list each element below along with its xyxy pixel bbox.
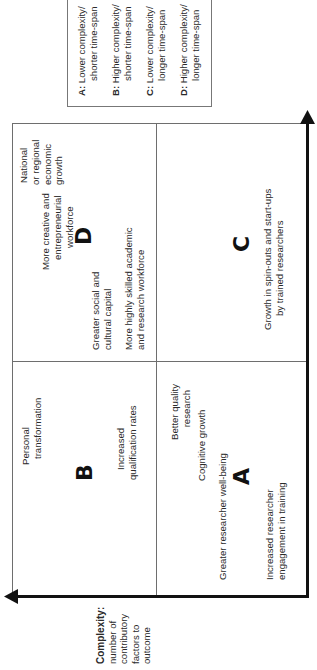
outcome-increased-engagement: Increased researcher engagement in train… (264, 482, 288, 580)
legend-item-b: B: Higher complexity/ shorter time-span (110, 4, 133, 96)
legend-item-d: D: Higher complexity/ longer time-span (178, 4, 201, 96)
outcome-greater-wellbeing: Greater researcher well-being (217, 453, 229, 580)
legend-item-c: C: Lower complexity/ longer time-span (144, 6, 167, 96)
outcome-better-quality-research: Better quality research (169, 384, 193, 448)
frame-right-border (12, 123, 306, 124)
quadrant-divider-vertical (12, 361, 306, 362)
y-axis-line (16, 595, 309, 598)
outcome-social-capital: Greater social and cultural capital (90, 272, 114, 350)
outcome-increased-qualification: Increased qualification rates (115, 405, 139, 480)
quadrant-divider-horizontal (156, 124, 157, 596)
y-axis-arrow-icon (4, 589, 18, 604)
outcome-personal-transformation: Personal transformation (20, 398, 44, 465)
x-axis-line (306, 122, 309, 598)
outcomes-quadrant-diagram: A: Lower complexity/ shorter time-span B… (0, 0, 317, 670)
outcome-skilled-workforce: More highly skilled academic and researc… (123, 227, 147, 350)
quadrant-letter-a: A (231, 468, 253, 485)
outcome-spinouts: Growth in spin-outs and start-ups by tra… (262, 189, 286, 330)
legend-box: A: Lower complexity/ shorter time-span B… (67, 0, 212, 107)
y-axis-label: Complexity: number of contributory facto… (95, 607, 153, 664)
quadrant-letter-d: D (73, 227, 95, 245)
frame-top-border (12, 124, 13, 596)
outcome-national-growth: National or regional economic growth (18, 140, 65, 185)
legend-item-a: A: Lower complexity/ shorter time-span (76, 6, 99, 96)
outcome-cognitive-growth: Cognitive growth (196, 410, 208, 481)
x-axis-arrow-icon (300, 110, 315, 124)
quadrant-letter-b: B (74, 464, 96, 481)
quadrant-letter-c: C (231, 236, 253, 252)
